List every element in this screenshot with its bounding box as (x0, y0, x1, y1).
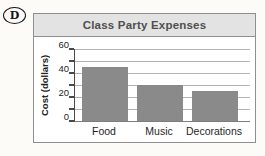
worksheet-page: D Class Party Expenses Cost (dollars) 02… (0, 0, 265, 156)
y-tick-10 (69, 108, 74, 109)
answer-choice-badge: D (3, 7, 26, 24)
y-tick-0 (69, 120, 74, 121)
y-tick-label-60: 60 (45, 40, 69, 50)
bar-decorations (192, 91, 238, 121)
y-tick-label-20: 20 (45, 88, 69, 98)
y-tick-label-40: 40 (45, 64, 69, 74)
x-label-music: Music (145, 125, 172, 137)
y-tick-30 (69, 84, 74, 85)
chart-title: Class Party Expenses (34, 14, 255, 37)
y-tick-label-0: 0 (45, 112, 69, 122)
y-tick-40 (69, 72, 74, 73)
y-tick-60 (69, 48, 74, 49)
chart-body: Cost (dollars) 0204060 FoodMusicDecorati… (34, 36, 255, 142)
gridline-60 (75, 49, 250, 50)
x-label-decorations: Decorations (186, 125, 242, 137)
answer-choice-letter: D (10, 10, 20, 21)
y-tick-20 (69, 96, 74, 97)
plot-area: 0204060 (74, 49, 250, 122)
bar-food (82, 67, 128, 121)
y-tick-50 (69, 60, 74, 61)
bar-music (137, 85, 183, 121)
gridline-50 (75, 61, 250, 62)
y-axis-title: Cost (dollars) (37, 49, 51, 121)
chart-panel: Class Party Expenses Cost (dollars) 0204… (33, 13, 256, 143)
x-label-food: Food (92, 125, 116, 137)
